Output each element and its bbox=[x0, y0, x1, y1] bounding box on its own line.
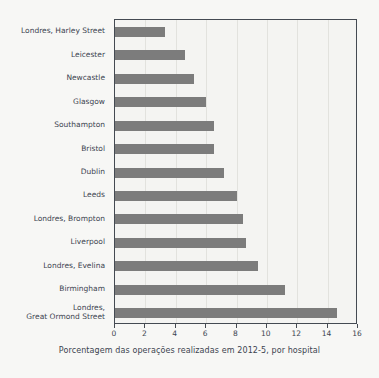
bar bbox=[115, 261, 258, 271]
y-axis-tick-label: Leeds bbox=[0, 190, 110, 199]
y-axis-tick-label: Londres, Great Ormond Street bbox=[0, 303, 110, 321]
bar bbox=[115, 238, 246, 248]
x-axis: 0246810121416 bbox=[114, 324, 357, 346]
y-axis-category-labels: Londres, Harley StreetLeicesterNewcastle… bbox=[0, 19, 110, 324]
bar bbox=[115, 121, 214, 131]
bar bbox=[115, 214, 243, 224]
x-axis-tick-label: 14 bbox=[315, 329, 339, 338]
x-axis-tick-label: 16 bbox=[345, 329, 369, 338]
y-axis-tick-label: Liverpool bbox=[0, 237, 110, 246]
bar bbox=[115, 144, 214, 154]
bar bbox=[115, 50, 185, 60]
x-axis-tick-mark bbox=[144, 324, 145, 328]
y-axis-tick-label: Londres, Harley Street bbox=[0, 26, 110, 35]
y-axis-tick-label: Bristol bbox=[0, 144, 110, 153]
x-axis-tick-label: 6 bbox=[193, 329, 217, 338]
y-axis-tick-label: Newcastle bbox=[0, 73, 110, 82]
y-axis-tick-label: Glasgow bbox=[0, 97, 110, 106]
y-axis-tick-label: Londres, Evelina bbox=[0, 261, 110, 270]
bar-chart-figure: Londres, Harley StreetLeicesterNewcastle… bbox=[0, 0, 379, 378]
x-axis-tick-mark bbox=[236, 324, 237, 328]
bar bbox=[115, 97, 206, 107]
x-axis-tick-mark bbox=[266, 324, 267, 328]
bar bbox=[115, 191, 237, 201]
bars-group bbox=[115, 20, 356, 323]
x-axis-tick-label: 8 bbox=[224, 329, 248, 338]
bar bbox=[115, 74, 194, 84]
bar bbox=[115, 27, 165, 37]
x-axis-tick-mark bbox=[114, 324, 115, 328]
y-axis-tick-label: Leicester bbox=[0, 50, 110, 59]
bar bbox=[115, 308, 337, 318]
x-axis-tick-label: 4 bbox=[163, 329, 187, 338]
x-axis-tick-mark bbox=[175, 324, 176, 328]
y-axis-tick-label: Southampton bbox=[0, 120, 110, 129]
x-axis-tick-label: 0 bbox=[102, 329, 126, 338]
y-axis-tick-label: Londres, Brompton bbox=[0, 214, 110, 223]
plot-area bbox=[114, 19, 357, 324]
x-axis-tick-label: 12 bbox=[284, 329, 308, 338]
y-axis-tick-label: Dublin bbox=[0, 167, 110, 176]
x-axis-tick-mark bbox=[327, 324, 328, 328]
x-axis-tick-label: 2 bbox=[132, 329, 156, 338]
x-axis-tick-mark bbox=[205, 324, 206, 328]
x-axis-tick-label: 10 bbox=[254, 329, 278, 338]
x-axis-title: Porcentagem das operações realizadas em … bbox=[0, 346, 379, 355]
y-axis-tick-label: Birmingham bbox=[0, 284, 110, 293]
x-axis-tick-mark bbox=[357, 324, 358, 328]
x-axis-tick-mark bbox=[296, 324, 297, 328]
bar bbox=[115, 168, 224, 178]
bar bbox=[115, 285, 285, 295]
